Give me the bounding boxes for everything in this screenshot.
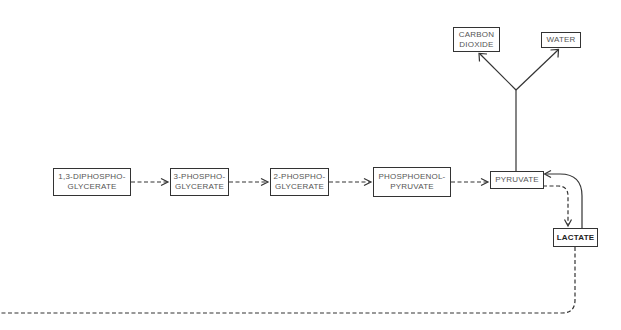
node-label-line1: CARBON: [459, 30, 494, 40]
node-phosphoenolpyruvate: PHOSPHOENOL- PYRUVATE: [373, 167, 451, 197]
node-label: WATER: [547, 35, 576, 45]
node-label-line2: GLYCERATE: [275, 182, 324, 192]
connector-layer: [0, 0, 621, 330]
arrow-pyruvate-to-lactate: [543, 186, 568, 225]
node-label-line2: GLYCERATE: [67, 182, 116, 192]
node-carbon-dioxide: CARBON DIOXIDE: [453, 27, 500, 52]
node-label-line2: GLYCERATE: [175, 182, 224, 192]
node-pyruvate: PYRUVATE: [490, 171, 544, 189]
arrow-junction-to-water: [516, 50, 558, 90]
node-label-line1: 2-PHOSPHO-: [274, 172, 326, 182]
node-label: PYRUVATE: [495, 175, 539, 185]
node-2-phosphoglycerate: 2-PHOSPHO- GLYCERATE: [270, 168, 329, 196]
node-water: WATER: [541, 32, 581, 48]
node-1-3-diphosphoglycerate: 1,3-DIPHOSPHO- GLYCERATE: [53, 168, 131, 196]
node-lactate: LACTATE: [553, 228, 598, 247]
node-label-line1: 3-PHOSPHO-: [174, 172, 226, 182]
node-label-line2: PYRUVATE: [390, 182, 434, 192]
node-label-line2: DIOXIDE: [459, 40, 493, 50]
arrow-lactate-offpage: [0, 247, 575, 313]
arrow-lactate-to-pyruvate: [545, 174, 582, 228]
node-label: LACTATE: [557, 233, 595, 243]
arrow-junction-to-co2: [480, 54, 516, 90]
node-3-phosphoglycerate: 3-PHOSPHO- GLYCERATE: [170, 168, 229, 196]
glycolysis-pathway-diagram: 1,3-DIPHOSPHO- GLYCERATE 3-PHOSPHO- GLYC…: [0, 0, 621, 330]
node-label-line1: PHOSPHOENOL-: [379, 172, 446, 182]
node-label-line1: 1,3-DIPHOSPHO-: [58, 172, 125, 182]
